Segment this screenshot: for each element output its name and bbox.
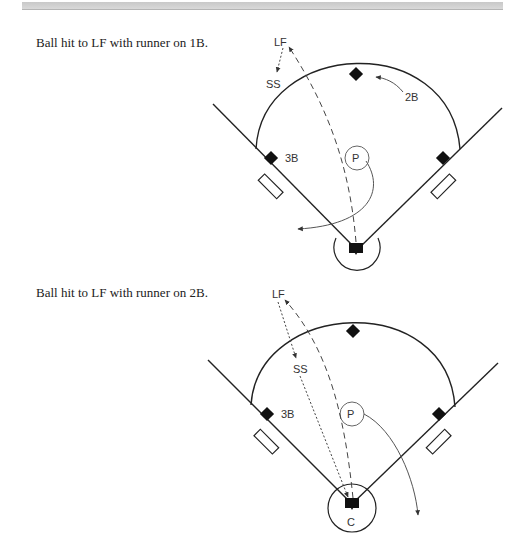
- first-base-dugout: [431, 174, 456, 199]
- lf-to-ss-arrow: [277, 48, 283, 72]
- ss-to-home-arrow: [300, 376, 348, 497]
- ball-path-arrow: [285, 300, 353, 498]
- catcher-label: C: [347, 516, 355, 528]
- pitcher-backup-arrow: [364, 414, 418, 515]
- third-base-icon: [260, 407, 274, 421]
- shortstop-label: SS: [266, 78, 281, 90]
- left-fielder-label: LF: [274, 36, 287, 48]
- second-base-label: 2B: [405, 91, 418, 103]
- pitcher-label: P: [352, 152, 359, 164]
- pitcher-label: P: [347, 408, 354, 420]
- third-base-label: 3B: [285, 152, 298, 164]
- lf-to-ss-arrow: [278, 302, 296, 358]
- second-base-move-arrow: [376, 77, 403, 92]
- diagram-1-field: P 3B 2B LF SS: [213, 36, 502, 270]
- second-base-icon: [349, 67, 363, 81]
- first-base-icon: [432, 407, 446, 421]
- first-base-foul-line: [352, 363, 498, 504]
- third-base-foul-line: [213, 104, 357, 250]
- third-base-dugout: [254, 429, 279, 454]
- home-plate-circle: [334, 238, 380, 270]
- third-base-dugout: [258, 174, 283, 199]
- diagram-2-field: C P 3B LF SS: [208, 288, 498, 532]
- second-base-icon: [346, 324, 360, 338]
- third-base-label: 3B: [281, 408, 294, 420]
- ball-path-arrow: [289, 47, 356, 242]
- third-base-icon: [264, 151, 278, 165]
- first-base-foul-line: [357, 108, 502, 250]
- pitcher-backup-arrow: [298, 161, 374, 229]
- first-base-icon: [436, 151, 450, 165]
- left-fielder-label: LF: [272, 288, 285, 300]
- first-base-dugout: [426, 429, 451, 454]
- shortstop-label: SS: [293, 363, 308, 375]
- third-base-foul-line: [208, 360, 352, 504]
- diagrams-canvas: P 3B 2B LF SS C P 3B LF SS: [0, 0, 522, 555]
